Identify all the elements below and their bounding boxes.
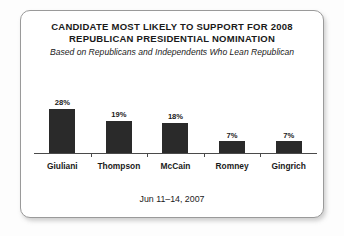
bar-value-label: 19% bbox=[111, 111, 126, 119]
bar-group: 18% bbox=[147, 99, 204, 153]
axis-tick bbox=[91, 153, 92, 157]
category-label: Thompson bbox=[91, 161, 148, 171]
bar bbox=[162, 123, 188, 153]
bar-group: 28% bbox=[34, 99, 91, 153]
bar-group: 7% bbox=[204, 99, 261, 153]
category-label: Romney bbox=[204, 161, 261, 171]
bar-value-label: 7% bbox=[283, 132, 294, 140]
chart-footer-date: Jun 11–14, 2007 bbox=[21, 194, 323, 204]
bar bbox=[49, 109, 75, 154]
bar-value-label: 28% bbox=[55, 99, 70, 107]
chart-card: CANDIDATE MOST LIKELY TO SUPPORT FOR 200… bbox=[20, 10, 324, 218]
category-label: McCain bbox=[147, 161, 204, 171]
axis-tick bbox=[204, 153, 205, 157]
x-axis bbox=[34, 153, 317, 158]
bar bbox=[276, 141, 302, 153]
category-label: Giuliani bbox=[34, 161, 91, 171]
bar bbox=[106, 121, 132, 153]
x-axis-tick-labels: GiulianiThompsonMcCainRomneyGingrich bbox=[34, 161, 317, 171]
axis-baseline bbox=[34, 153, 317, 154]
category-label: Gingrich bbox=[260, 161, 317, 171]
bar-value-label: 18% bbox=[168, 113, 183, 121]
chart-title-line-2: REPUBLICAN PRESIDENTIAL NOMINATION bbox=[21, 33, 323, 45]
axis-tick bbox=[260, 153, 261, 157]
chart-plot-area: 28%19%18%7%7% bbox=[34, 99, 317, 153]
axis-tick bbox=[147, 153, 148, 157]
bar-group: 7% bbox=[260, 99, 317, 153]
bar-group: 19% bbox=[91, 99, 148, 153]
bar-value-label: 7% bbox=[227, 132, 238, 140]
bar bbox=[219, 141, 245, 153]
chart-subtitle: Based on Republicans and Independents Wh… bbox=[21, 46, 323, 59]
chart-header: CANDIDATE MOST LIKELY TO SUPPORT FOR 200… bbox=[21, 11, 323, 59]
chart-title-line-1: CANDIDATE MOST LIKELY TO SUPPORT FOR 200… bbox=[21, 21, 323, 33]
bar-series: 28%19%18%7%7% bbox=[34, 99, 317, 153]
